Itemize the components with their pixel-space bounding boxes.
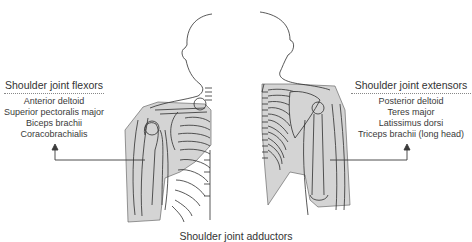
head-outline: [260, 12, 330, 90]
anterior-figure: [125, 14, 212, 222]
extensors-title: Shoulder joint extensors: [351, 79, 471, 94]
extensor-item: Posterior deltoid: [351, 96, 471, 107]
flexor-item: Coracobrachialis: [4, 129, 104, 140]
flexor-item: Superior pectoralis major: [4, 107, 104, 118]
flexor-item: Biceps brachii: [4, 118, 104, 129]
adductors-title: Shoulder joint adductors: [0, 230, 472, 242]
extensor-item: Triceps brachii (long head): [351, 129, 471, 140]
posterior-figure: [260, 12, 350, 215]
flexors-label: Shoulder joint flexors Anterior deltoid …: [4, 79, 104, 140]
flexor-item: Anterior deltoid: [4, 96, 104, 107]
extensor-item: Latissimus dorsi: [351, 118, 471, 129]
extensors-label: Shoulder joint extensors Posterior delto…: [351, 79, 471, 140]
head-outline: [150, 14, 212, 108]
flexors-title: Shoulder joint flexors: [4, 79, 104, 94]
extensor-item: Teres major: [351, 107, 471, 118]
